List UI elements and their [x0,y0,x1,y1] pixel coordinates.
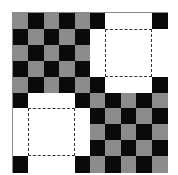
removed-square [13,108,29,125]
black-square [28,77,44,94]
black-square [13,156,29,173]
removed-square [121,77,137,94]
gray-square [13,77,29,94]
black-square [59,77,75,94]
gray-square [13,45,29,62]
removed-square [13,140,29,157]
black-square [136,124,152,141]
gray-square [121,93,137,110]
black-square [59,13,75,30]
black-square [136,156,152,173]
removed-square [44,156,60,173]
gray-square [105,108,121,125]
black-square [152,13,168,30]
black-square [13,61,29,78]
black-square [75,93,91,110]
gray-square [44,45,60,62]
removed-square [90,45,106,62]
gray-square [75,13,91,30]
gray-square [44,13,60,30]
gray-square [90,124,106,141]
gray-square [152,156,168,173]
black-square [44,29,60,46]
black-square [121,140,137,157]
gray-square [59,29,75,46]
gray-square [44,77,60,94]
black-square [152,108,168,125]
gray-square [136,140,152,157]
gray-square [28,61,44,78]
gray-square [28,29,44,46]
removed-square [75,108,91,125]
removed-square [121,13,137,30]
gray-square [13,13,29,30]
black-square [28,13,44,30]
gray-square [136,108,152,125]
black-square [90,108,106,125]
removed-square [59,156,75,173]
removed-square [152,29,168,46]
black-square [13,93,29,110]
black-square [90,140,106,157]
gray-square [75,77,91,94]
checkerboard [13,13,167,172]
gray-square [121,156,137,173]
black-square [105,156,121,173]
removed-square [75,140,91,157]
removed-square [136,77,152,94]
removed-square [136,13,152,30]
removed-square [152,45,168,62]
black-square [136,93,152,110]
black-square [105,93,121,110]
black-square [90,13,106,30]
black-square [121,108,137,125]
black-square [75,61,91,78]
removed-square [105,77,121,94]
black-square [75,29,91,46]
gray-square [152,124,168,141]
gray-square [90,156,106,173]
gray-square [152,93,168,110]
black-square [13,29,29,46]
removed-square [44,93,60,110]
black-square [152,140,168,157]
gray-square [75,45,91,62]
gray-square [59,61,75,78]
black-square [90,77,106,94]
gray-square [121,124,137,141]
removed-square [105,13,121,30]
removed-square [152,61,168,78]
removed-square [59,93,75,110]
black-square [152,77,168,94]
removed-square [90,61,106,78]
removed-square [28,93,44,110]
black-square [105,124,121,141]
black-square [59,45,75,62]
lower-left-dashed-square [28,108,74,156]
black-square [28,45,44,62]
removed-square [75,124,91,141]
removed-square [13,124,29,141]
gray-square [105,140,121,157]
gray-square [90,93,106,110]
black-square [75,156,91,173]
upper-right-dashed-square [105,29,151,77]
removed-square [90,29,106,46]
removed-square [28,156,44,173]
black-square [44,61,60,78]
